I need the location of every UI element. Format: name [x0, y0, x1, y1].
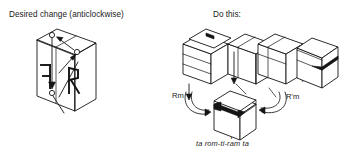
cube3-tail: [269, 88, 276, 97]
face-letter-f: [41, 65, 50, 88]
face-letter-r: [69, 68, 79, 93]
step-cube-3: [258, 34, 303, 97]
cube2-arrow-head: [231, 78, 237, 84]
rotation-node-bottom: [49, 90, 54, 95]
left-cube-top-face: [37, 29, 96, 55]
center-bottom-cube: [214, 91, 256, 140]
step-cube-1: [183, 29, 231, 100]
figure-artwork: [0, 0, 343, 155]
step-cube-4: [297, 38, 338, 88]
flow-arrow-left-inner: [191, 92, 209, 110]
rotation-node-mid: [74, 49, 79, 54]
rotation-arrow-tail: [53, 96, 64, 113]
left-cube-group: [37, 29, 96, 113]
cube2-tail: [236, 84, 246, 94]
rotation-node-top: [49, 32, 54, 37]
flow-arrow-right-inner: [261, 92, 280, 108]
instructional-figure: Desired change (anticlockwise) Do this: …: [0, 0, 343, 155]
